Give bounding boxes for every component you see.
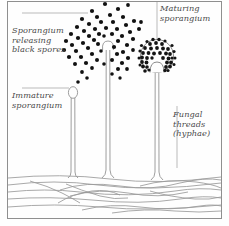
label-maturing-sporangium: Maturing sporangium [160,4,210,23]
immature-sporangium-head [68,87,77,99]
label-immature-sporangium: Immature sporangium [12,91,62,110]
fungus-diagram-figure: Sporangium releasing black spores Maturi… [0,0,229,226]
label-fungal-threads-hyphae: Fungal threads (hyphae) [173,110,210,139]
releasing-sporangium-cup [102,41,113,50]
label-sporangium-releasing-spores: Sporangium releasing black spores [12,26,65,55]
